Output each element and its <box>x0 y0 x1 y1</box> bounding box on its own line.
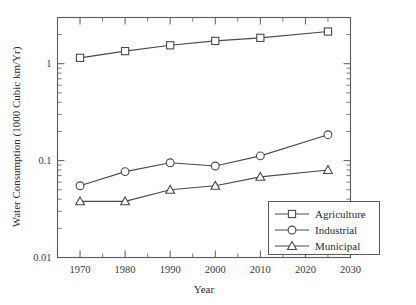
legend-label: Agriculture <box>315 208 366 220</box>
series-municipal <box>76 166 333 205</box>
legend-label: Industrial <box>315 224 357 236</box>
x-tick-label: 1970 <box>70 264 91 275</box>
series-line-industrial <box>80 135 328 186</box>
legend-marker-agriculture <box>288 210 295 217</box>
chart-legend[interactable]: AgricultureIndustrialMunicipal <box>269 202 380 255</box>
data-point-industrial-2025 <box>324 131 332 139</box>
legend-marker-industrial <box>288 226 296 234</box>
y-axis-title: Water Consumption (1000 Cubic km/Yr) <box>10 46 23 227</box>
data-point-agriculture-1970 <box>76 54 83 61</box>
x-axis-title: Year <box>194 283 215 295</box>
y-tick-label: 1 <box>46 58 51 69</box>
data-point-municipal-2025 <box>324 166 333 174</box>
water-consumption-log-line-chart: 0.010.11 1970198019902000201020202030 Ye… <box>0 0 416 305</box>
x-tick-label: 2030 <box>340 264 361 275</box>
data-point-industrial-2000 <box>211 162 219 170</box>
legend-label: Municipal <box>315 240 360 252</box>
data-point-agriculture-1980 <box>122 47 129 54</box>
data-point-agriculture-1990 <box>167 42 174 49</box>
data-point-industrial-1990 <box>166 159 174 167</box>
x-tick-label: 2020 <box>295 264 316 275</box>
data-point-agriculture-2025 <box>324 28 331 35</box>
y-axis-tick-labels: 0.010.11 <box>33 58 51 263</box>
data-point-industrial-1970 <box>76 182 84 190</box>
x-tick-label: 2010 <box>250 264 271 275</box>
data-point-industrial-2010 <box>256 152 264 160</box>
x-tick-label: 1980 <box>115 264 136 275</box>
y-tick-label: 0.01 <box>33 252 51 263</box>
series-industrial <box>76 131 332 190</box>
data-point-agriculture-2000 <box>212 37 219 44</box>
series-line-agriculture <box>80 32 328 58</box>
x-tick-label: 2000 <box>205 264 226 275</box>
chart-container: 0.010.11 1970198019902000201020202030 Ye… <box>0 0 416 305</box>
data-series-layer <box>76 28 333 205</box>
x-tick-label: 1990 <box>160 264 181 275</box>
series-line-municipal <box>80 170 328 201</box>
series-agriculture <box>76 28 331 62</box>
data-point-agriculture-2010 <box>257 34 264 41</box>
x-axis-tick-labels: 1970198019902000201020202030 <box>70 264 361 275</box>
data-point-industrial-1980 <box>121 168 129 176</box>
y-tick-label: 0.1 <box>38 155 51 166</box>
